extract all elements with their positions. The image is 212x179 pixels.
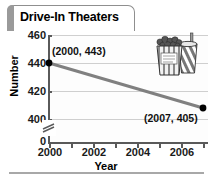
y-tick-mark-460 (48, 35, 52, 37)
x-tick-mark-2007 (203, 143, 205, 148)
bottom-divider (9, 172, 204, 174)
y-tick-mark-420 (48, 91, 52, 93)
gridline-420 (49, 91, 208, 92)
axis-break-icon (42, 120, 56, 136)
x-axis-title: Year (0, 160, 212, 172)
data-point-label-start: (2000, 443) (52, 45, 106, 57)
x-tick-label-2000: 2000 (30, 146, 70, 158)
chart-figure: Drive-In Theaters 460 440 420 400 0 2000… (0, 0, 212, 179)
x-tick-mark-2001 (71, 143, 73, 148)
y-tick-mark-440 (48, 63, 52, 65)
x-tick-mark-2005 (159, 143, 161, 148)
x-tick-mark-2003 (115, 143, 117, 148)
y-axis-title: Number (8, 46, 20, 106)
x-tick-label-2006: 2006 (162, 146, 202, 158)
data-point-label-end: (2007, 405) (144, 112, 198, 124)
popcorn-and-soda-icon (148, 31, 204, 81)
x-tick-label-2004: 2004 (118, 146, 158, 158)
y-tick-label-460: 460 (12, 30, 46, 41)
x-tick-label-2002: 2002 (74, 146, 114, 158)
y-tick-label-400: 400 (12, 114, 46, 125)
